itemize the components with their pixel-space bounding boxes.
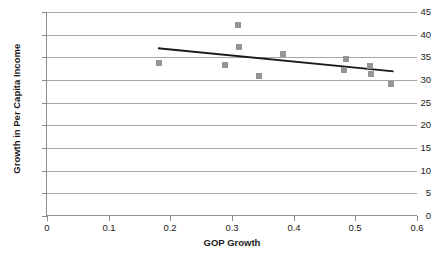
data-point	[236, 44, 242, 50]
data-point	[280, 51, 286, 57]
data-point	[235, 22, 241, 28]
x-tick-mark	[232, 216, 233, 221]
x-tick-mark	[47, 216, 48, 221]
x-tick-label: 0	[27, 223, 67, 233]
x-axis-title: GOP Growth	[47, 238, 417, 248]
data-point	[367, 63, 373, 69]
x-tick-label: 0.5	[335, 223, 375, 233]
data-point	[368, 71, 374, 77]
x-tick-label: 0.6	[397, 223, 436, 233]
data-point	[343, 56, 349, 62]
x-tick-mark	[170, 216, 171, 221]
data-point	[222, 62, 228, 68]
data-point	[388, 81, 394, 87]
plot-area	[47, 12, 417, 216]
y-axis-title: Growth in Per Capita Income	[12, 7, 22, 211]
x-tick-label: 0.1	[89, 223, 129, 233]
trendline	[47, 12, 417, 216]
x-tick-mark	[355, 216, 356, 221]
x-tick-label: 0.3	[212, 223, 252, 233]
x-tick-mark	[417, 216, 418, 221]
x-tick-label: 0.2	[150, 223, 190, 233]
x-tick-label: 0.4	[274, 223, 314, 233]
x-tick-mark	[109, 216, 110, 221]
x-tick-mark	[294, 216, 295, 221]
data-point	[156, 60, 162, 66]
data-point	[256, 73, 262, 79]
data-point	[341, 67, 347, 73]
